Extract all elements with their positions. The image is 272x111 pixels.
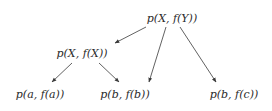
derivation-tree: p(X, f(Y)) p(X, f(X)) p(a, f(a)) p(b, f(… bbox=[0, 0, 272, 111]
node-leaf-b: p(b, f(b)) bbox=[100, 88, 149, 101]
edge-root-to-leaf-c bbox=[180, 27, 216, 82]
edge-mid-to-leaf-b bbox=[99, 63, 119, 82]
node-leaf-c: p(b, f(c)) bbox=[210, 88, 258, 101]
node-mid: p(X, f(X)) bbox=[57, 47, 108, 60]
edge-mid-to-leaf-a bbox=[52, 63, 72, 82]
edge-root-to-leaf-b bbox=[149, 27, 166, 82]
node-leaf-a: p(a, f(a)) bbox=[16, 88, 64, 101]
node-root: p(X, f(Y)) bbox=[147, 12, 197, 25]
edge-root-to-mid bbox=[115, 27, 146, 43]
